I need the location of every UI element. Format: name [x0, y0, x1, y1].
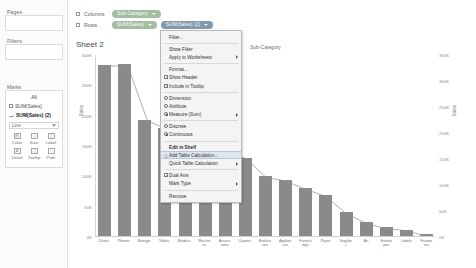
menu-item-label: Dimension — [169, 96, 238, 101]
marks-button-path[interactable]: − Path — [43, 147, 59, 161]
x-tick-label: Tables — [158, 239, 171, 253]
menu-separator — [164, 120, 238, 121]
menu-item-label: Filter... — [169, 35, 238, 40]
columns-shelf-icon — [76, 12, 80, 16]
pill-sum-sales-2[interactable]: SUM(Sales) (2) — [161, 21, 213, 29]
checkbox-icon — [164, 84, 168, 88]
menu-separator — [164, 190, 238, 191]
marks-item-sum-sales-2[interactable]: SUM(Sales) (2) — [6, 111, 62, 120]
pages-shelf-dropzone[interactable] — [5, 15, 63, 31]
menu-item-label: Discrete — [169, 124, 238, 129]
y-tick-label-right: 200K — [439, 131, 449, 136]
menu-item-attribute[interactable]: Attribute — [161, 102, 241, 110]
marks-all-row[interactable]: All — [6, 91, 62, 102]
menu-separator — [164, 63, 238, 64]
columns-shelf-label: Columns — [84, 11, 108, 17]
menu-separator — [164, 169, 238, 170]
marks-item-sum-sales[interactable]: SUM(Sales) — [6, 102, 62, 111]
column-field-header: Sub-Category — [250, 44, 281, 50]
size-icon: ◇ — [31, 133, 38, 139]
menu-item-label: Include in Tooltip — [169, 84, 238, 89]
y-tick-label-right: 150K — [439, 157, 449, 162]
filters-shelf-dropzone[interactable] — [5, 44, 63, 60]
columns-shelf[interactable]: Columns Sub-Category — [76, 9, 161, 18]
checkbox-icon — [164, 75, 168, 79]
menu-item-label: Dual Axis — [169, 173, 238, 178]
path-icon: − — [48, 148, 55, 154]
marks-item-label: SUM(Sales) — [15, 103, 42, 109]
menu-item-remove[interactable]: Remove — [161, 192, 241, 200]
menu-item-discrete[interactable]: Discrete — [161, 123, 241, 131]
x-tick-label: Labels — [400, 239, 413, 253]
x-tick-label: Binders — [178, 239, 191, 253]
marks-button-color[interactable]: ▤ Color — [9, 132, 25, 146]
x-axis-labels: ChairsPhonesStorageTablesBindersMachines… — [95, 239, 435, 253]
left-sidebar: Pages Filters Marks All SUM(Sales) SUM(S… — [0, 0, 68, 268]
menu-item-include-in-tooltip[interactable]: Include in Tooltip — [161, 82, 241, 90]
x-tick-label: Phones — [117, 239, 130, 253]
x-tick-label: Envelopes — [380, 239, 393, 253]
x-tick-label: Supplies — [339, 239, 352, 253]
marks-button-label: Color — [12, 140, 22, 145]
menu-check-slot — [163, 84, 169, 89]
menu-item-label: Add Table Calculation... — [169, 153, 238, 158]
mark-type-select[interactable]: Line — [9, 122, 59, 129]
marks-button-detail[interactable]: A Detail — [9, 147, 25, 161]
menu-item-dimension[interactable]: Dimension — [161, 94, 241, 102]
x-tick-label: Appliances — [279, 239, 292, 253]
chevron-down-icon — [152, 13, 156, 15]
menu-item-label: Continuous — [169, 132, 238, 137]
menu-item-label: Measure (Sum) — [169, 112, 234, 117]
menu-item-continuous[interactable]: Continuous — [161, 131, 241, 139]
menu-item-show-header[interactable]: Show Header — [161, 74, 241, 82]
y-tick-label-left: 250K — [64, 83, 92, 88]
menu-item-mark-type[interactable]: Mark Type — [161, 180, 241, 188]
y-tick-label-right: 350K — [439, 53, 449, 58]
y-tick-label-right: 300K — [439, 79, 449, 84]
y-tick-label-left: 50K — [64, 205, 92, 210]
line-mark-icon — [9, 113, 14, 117]
x-tick-label: Bookcases — [259, 239, 272, 253]
bar-mark-icon — [9, 104, 13, 108]
shelves-area: Columns Sub-Category Rows SUM(Sales) SUM… — [68, 0, 476, 32]
y-tick-label-left: 200K — [64, 114, 92, 119]
radio-icon — [164, 96, 168, 100]
menu-item-measure-sum[interactable]: Measure (Sum) — [161, 111, 241, 119]
menu-item-dual-axis[interactable]: Dual Axis — [161, 172, 241, 180]
menu-item-show-filter[interactable]: Show Filter — [161, 45, 241, 53]
menu-item-label: Edit in Shelf — [169, 145, 238, 150]
marks-button-label[interactable]: ▯ Label — [43, 132, 59, 146]
radio-icon — [164, 104, 168, 108]
menu-item-label: Show Header — [169, 75, 238, 80]
menu-check-slot — [163, 75, 169, 80]
menu-item-add-table-calculation[interactable]: △Add Table Calculation... — [161, 151, 241, 159]
menu-item-format[interactable]: Format... — [161, 66, 241, 74]
pill-sum-sales[interactable]: SUM(Sales) — [112, 21, 157, 29]
tooltip-icon: ◻ — [31, 148, 38, 154]
marks-button-label: Label — [46, 140, 57, 145]
pill-label: SUM(Sales) (2) — [166, 22, 200, 27]
x-tick-label: Fasteners — [420, 239, 433, 253]
menu-item-apply-to-worksheets[interactable]: Apply to Worksheets — [161, 53, 241, 61]
pill-sub-category[interactable]: Sub-Category — [112, 10, 161, 18]
menu-check-slot — [163, 173, 169, 178]
marks-button-tooltip[interactable]: ◻ Tooltip — [26, 147, 42, 161]
menu-item-filter[interactable]: Filter... — [161, 33, 241, 41]
marks-button-label: Detail — [12, 155, 23, 160]
rows-shelf[interactable]: Rows SUM(Sales) SUM(Sales) (2) — [76, 20, 213, 29]
field-context-menu[interactable]: Filter...Show FilterApply to WorksheetsF… — [160, 30, 242, 203]
radio-icon — [164, 112, 168, 116]
y-tick-label-right: 100K — [439, 183, 449, 188]
mark-type-value: Line — [12, 123, 21, 128]
x-tick-label: Chairs — [97, 239, 110, 253]
menu-item-label: Attribute — [169, 104, 238, 109]
y-tick-label-right: 50K — [439, 209, 447, 214]
menu-item-label: Quick Table Calculation — [169, 161, 234, 166]
marks-button-size[interactable]: ◇ Size — [26, 132, 42, 146]
y-tick-label-right: 250K — [439, 105, 449, 110]
x-tick-label: Machines — [198, 239, 211, 253]
menu-item-quick-table-calculation[interactable]: Quick Table Calculation — [161, 159, 241, 167]
menu-item-edit-in-shelf[interactable]: Edit in Shelf — [161, 143, 241, 151]
marks-card: All SUM(Sales) SUM(Sales) (2) Line ▤ Col… — [5, 90, 63, 168]
chart-plot-area — [95, 55, 435, 237]
